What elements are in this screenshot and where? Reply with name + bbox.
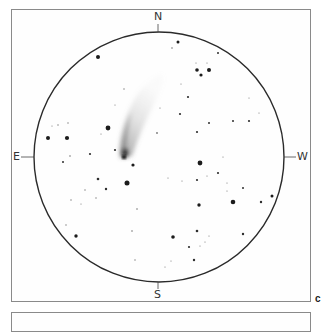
west-label: W (297, 151, 308, 162)
star (195, 62, 196, 63)
star (248, 120, 250, 122)
star (199, 245, 200, 246)
star (89, 153, 91, 155)
star (95, 197, 96, 198)
star (74, 234, 77, 237)
star (271, 195, 274, 198)
star (208, 122, 210, 124)
star (105, 188, 107, 190)
star-field (46, 41, 274, 268)
star (199, 73, 202, 76)
star (196, 131, 198, 133)
star (136, 208, 138, 210)
star (231, 200, 236, 205)
star (51, 125, 52, 126)
star (258, 112, 259, 113)
star (106, 126, 111, 131)
star (193, 259, 195, 261)
star (57, 124, 58, 125)
star (198, 161, 203, 166)
star (177, 41, 180, 44)
star (226, 190, 227, 191)
star (96, 55, 100, 59)
star (67, 122, 68, 123)
star (62, 161, 64, 163)
star (204, 241, 205, 242)
star (170, 260, 171, 261)
star (164, 266, 165, 267)
star (80, 203, 81, 204)
star (114, 149, 116, 151)
north-label: N (154, 11, 162, 22)
star (232, 120, 234, 122)
star (181, 180, 182, 181)
star (179, 113, 181, 115)
star (156, 132, 158, 134)
star (84, 189, 85, 190)
star (222, 156, 223, 157)
star (46, 136, 50, 140)
panel-label: c (315, 293, 321, 304)
comet-nucleus (122, 155, 126, 159)
star (207, 68, 211, 72)
star (65, 224, 66, 225)
star (195, 68, 199, 72)
star (260, 201, 262, 203)
star (114, 104, 115, 105)
star (242, 233, 244, 235)
star (100, 133, 101, 134)
star (197, 203, 200, 206)
star (131, 163, 134, 166)
star (171, 47, 173, 49)
star (196, 230, 199, 233)
star (226, 182, 227, 183)
star (97, 178, 100, 181)
star (206, 62, 207, 63)
star (208, 235, 209, 236)
south-label: S (154, 289, 161, 300)
star (171, 235, 175, 239)
star (206, 175, 207, 176)
star (217, 172, 219, 174)
star (217, 52, 219, 54)
star (69, 155, 71, 157)
star (196, 179, 198, 181)
star (134, 259, 135, 260)
east-label: E (13, 151, 20, 162)
star (65, 136, 69, 140)
star (187, 96, 189, 98)
star (180, 83, 181, 84)
star (123, 88, 124, 89)
star (167, 177, 168, 178)
star (248, 97, 249, 98)
star (159, 107, 160, 108)
star (131, 230, 133, 232)
star (125, 181, 130, 186)
star (242, 187, 244, 189)
star (70, 199, 71, 200)
star (188, 246, 190, 248)
field-of-view-circle (34, 32, 284, 282)
